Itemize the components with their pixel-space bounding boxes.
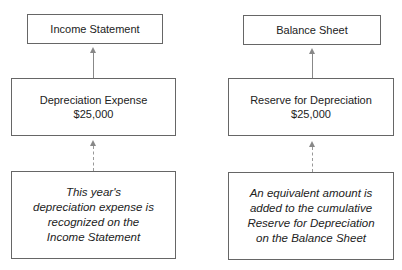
note-line: Income Statement: [47, 230, 140, 245]
note-line: recognized on the: [48, 215, 139, 230]
arrow-up-icon: [309, 48, 315, 54]
balance-sheet-note-box: An equivalent amount is added to the cum…: [228, 172, 394, 260]
reserve-title: Reserve for Depreciation: [250, 93, 372, 107]
balance-sheet-box: Balance Sheet: [243, 15, 381, 45]
income-statement-note-box: This year's depreciation expense is reco…: [11, 171, 176, 259]
arrow-up-icon: [309, 141, 315, 147]
arrow-line-left-solid: [93, 52, 94, 78]
depreciation-expense-title: Depreciation Expense: [40, 93, 148, 107]
arrow-up-icon: [90, 47, 96, 53]
note-line: This year's: [66, 185, 121, 200]
note-line: An equivalent amount is: [250, 186, 373, 201]
note-line: on the Balance Sheet: [256, 231, 366, 246]
balance-sheet-label: Balance Sheet: [276, 23, 348, 37]
reserve-amount: $25,000: [291, 107, 331, 121]
arrow-up-icon: [90, 140, 96, 146]
depreciation-expense-box: Depreciation Expense $25,000: [11, 78, 176, 136]
note-line: added to the cumulative: [250, 201, 372, 216]
arrow-line-right-dashed: [312, 147, 313, 172]
income-statement-box: Income Statement: [27, 14, 163, 44]
income-statement-label: Income Statement: [50, 22, 139, 36]
reserve-for-depreciation-box: Reserve for Depreciation $25,000: [228, 78, 394, 136]
arrow-line-right-solid: [312, 53, 313, 78]
arrow-line-left-dashed: [93, 146, 94, 171]
note-line: Reserve for Depreciation: [247, 216, 374, 231]
note-line: depreciation expense is: [33, 200, 154, 215]
depreciation-expense-amount: $25,000: [74, 107, 114, 121]
